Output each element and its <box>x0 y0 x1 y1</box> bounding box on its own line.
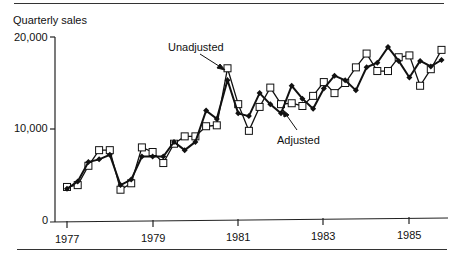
square-marker-icon <box>331 90 338 97</box>
diamond-marker-icon <box>96 156 102 162</box>
square-marker-icon <box>417 82 424 89</box>
square-marker-icon <box>438 46 445 53</box>
square-marker-icon <box>96 147 103 154</box>
diamond-marker-icon <box>364 64 370 70</box>
line-chart <box>0 0 458 262</box>
square-marker-icon <box>374 68 381 75</box>
x-axis <box>50 218 448 222</box>
square-marker-icon <box>288 100 295 107</box>
square-marker-icon <box>385 68 392 75</box>
square-marker-icon <box>181 133 188 140</box>
square-marker-icon <box>310 92 317 99</box>
square-marker-icon <box>363 50 370 57</box>
square-marker-icon <box>138 144 145 151</box>
square-marker-icon <box>213 122 220 129</box>
square-marker-icon <box>245 127 252 134</box>
diamond-marker-icon <box>246 113 252 119</box>
square-marker-icon <box>256 103 263 110</box>
square-marker-icon <box>299 103 306 110</box>
square-marker-icon <box>267 84 274 91</box>
square-marker-icon <box>406 52 413 59</box>
square-marker-icon <box>224 65 231 72</box>
square-marker-icon <box>160 160 167 167</box>
square-marker-icon <box>352 64 359 71</box>
diamond-marker-icon <box>235 110 241 116</box>
square-marker-icon <box>203 123 210 130</box>
